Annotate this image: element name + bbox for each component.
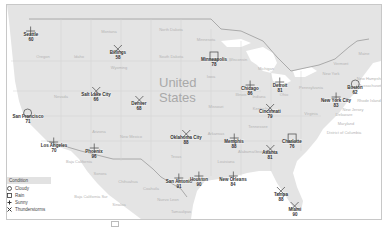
city-temperature: 88 (170, 140, 202, 145)
legend-item-cloudy[interactable]: Cloudy (7, 185, 51, 192)
city-marker-chicago[interactable]: Chicago86 (241, 76, 259, 96)
x-icon (276, 182, 286, 192)
region-label: Delaware (336, 112, 353, 117)
square-icon (287, 129, 297, 139)
city-marker-denver[interactable]: Denver68 (131, 91, 146, 111)
city-marker-detroit[interactable]: Detroit81 (273, 73, 288, 93)
circle-icon (7, 186, 12, 191)
region-label: Minnesota (197, 37, 215, 42)
region-label: Vermont (334, 61, 349, 66)
x-icon (290, 197, 300, 207)
map-control-icon[interactable] (111, 221, 119, 227)
region-label: North Dakota (159, 27, 183, 32)
city-temperature: 83 (321, 103, 351, 108)
city-marker-san-francisco[interactable]: San Francisco71 (13, 104, 44, 124)
plus-icon (245, 76, 255, 86)
city-marker-los-angeles[interactable]: Los Angeles70 (41, 133, 68, 153)
city-temperature: 70 (41, 148, 68, 153)
city-marker-miami[interactable]: Miami90 (289, 197, 302, 217)
city-marker-houston[interactable]: Houston90 (190, 167, 208, 187)
city-temperature: 58 (110, 55, 126, 60)
city-marker-memphis[interactable]: Memphis88 (224, 129, 244, 149)
region-label: Chihuahua (118, 179, 137, 184)
city-marker-new-york-city[interactable]: New York City83 (321, 88, 351, 108)
region-label: Iowa (207, 74, 215, 79)
legend-item-thunderstorms[interactable]: Thunderstorms (7, 206, 51, 213)
city-temperature: 76 (282, 144, 302, 149)
region-label: Sinaloa (112, 202, 125, 207)
city-temperature: 60 (24, 37, 39, 42)
region-label: Oregon (36, 54, 49, 59)
square-icon (7, 193, 12, 198)
plus-icon (331, 88, 341, 98)
city-marker-salt-lake-city[interactable]: Salt Lake City66 (81, 82, 111, 102)
country-label-line2: States (159, 90, 197, 105)
region-label: Coahuila (143, 186, 159, 191)
city-marker-billings[interactable]: Billings58 (110, 40, 126, 60)
city-marker-charlotte[interactable]: Charlotte76 (282, 129, 302, 149)
region-label: Maine (359, 51, 370, 56)
region-label: Wyoming (111, 65, 128, 70)
region-label: Louisiana (217, 159, 234, 164)
region-label: Missouri (209, 104, 224, 109)
city-marker-tampa[interactable]: Tampa88 (274, 182, 288, 202)
plus-icon (26, 22, 36, 32)
region-label: Nevada (54, 94, 68, 99)
city-temperature: 71 (13, 119, 44, 124)
country-label-line1: United (159, 75, 197, 90)
region-label: Alabama (238, 149, 254, 154)
city-marker-minneapolis[interactable]: Minneapolis78 (201, 47, 227, 67)
city-temperature: 84 (219, 182, 246, 187)
city-marker-new-orleans[interactable]: New Orleans84 (219, 167, 246, 187)
plus-icon (49, 133, 59, 143)
region-label: Idaho (74, 54, 84, 59)
region-label: Nuevo Leon (157, 197, 179, 202)
region-label: Michigan (258, 66, 274, 71)
region-label: New York (323, 71, 340, 76)
plus-icon (275, 73, 285, 83)
city-temperature: 79 (259, 114, 281, 119)
circle-icon (350, 75, 360, 85)
city-marker-seattle[interactable]: Seattle60 (24, 22, 39, 42)
legend-label: Sunny (15, 200, 28, 205)
condition-legend: Condition Cloudy Rain Sunny Thunderstorm… (7, 177, 51, 213)
city-marker-atlanta[interactable]: Atlanta81 (262, 140, 277, 160)
x-icon (113, 40, 123, 50)
square-icon (209, 47, 219, 57)
legend-item-sunny[interactable]: Sunny (7, 199, 51, 206)
region-label: Arkansas (208, 131, 225, 136)
region-label: South Dakota (159, 54, 183, 59)
map-frame[interactable]: MontanaNorth DakotaMinnesotaSouth Dakota… (6, 4, 382, 220)
legend-title: Condition (7, 177, 51, 184)
region-label: Virginia (304, 111, 317, 116)
city-temperature: 88 (274, 197, 288, 202)
region-label: Tamaulipas (171, 209, 191, 214)
region-label: Maryland (338, 121, 354, 126)
region-label: Texas (171, 154, 181, 159)
region-label: Baja California (66, 159, 92, 164)
city-temperature: 90 (289, 212, 302, 217)
region-label: Sonora (94, 171, 107, 176)
plus-icon (7, 200, 12, 205)
region-label: Arizona (92, 129, 106, 134)
city-temperature: 78 (201, 62, 227, 67)
region-label: Rhode Island (357, 98, 381, 103)
circle-icon (23, 104, 33, 114)
region-label: Mexico (153, 219, 166, 221)
plus-icon (194, 167, 204, 177)
legend-item-rain[interactable]: Rain (7, 192, 51, 199)
city-temperature: 68 (131, 106, 146, 111)
legend-label: Rain (15, 193, 24, 198)
region-label: District of Columbia (327, 130, 362, 135)
city-marker-cincinnati[interactable]: Cincinnati79 (259, 99, 281, 119)
plus-icon (229, 129, 239, 139)
region-label: Baja California Sur (74, 194, 107, 199)
city-marker-phoenix[interactable]: Phoenix96 (85, 139, 103, 159)
city-marker-san-antonio[interactable]: San Antonio91 (166, 169, 192, 189)
region-label: Pennsylvania (299, 85, 323, 90)
region-label: Tennessee (248, 124, 267, 129)
plus-icon (228, 167, 238, 177)
city-marker-oklahoma-city[interactable]: Oklahoma City88 (170, 125, 202, 145)
plus-icon (174, 169, 184, 179)
city-temperature: 66 (81, 97, 111, 102)
